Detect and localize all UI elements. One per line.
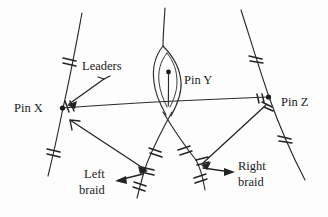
pin-z-dot [266,94,271,99]
pin-x-label: Pin X [14,101,43,115]
leaders-callout-line [69,79,104,104]
right-crossing-tick-lower [194,174,207,183]
left-braid-arrow-group [115,174,143,184]
right-crossing-tick-upper [178,146,192,155]
right-braid-arrow-group [203,168,235,176]
diagram-canvas: Pin X Pin Y Pin Z Leaders Left braid Rig… [0,0,328,217]
left-strand-line [48,13,82,176]
right-braid-label-line1: Right [238,159,266,173]
left-strand-tick-upper [63,58,76,66]
pin-z-label: Pin Z [281,95,308,109]
right-braid-arrow-tip [224,168,235,176]
pin-y-label: Pin Y [184,73,212,87]
horizontal-leader-group [62,94,268,108]
left-braid-label-line2: braid [79,183,105,197]
leaders-callout-group [67,76,110,109]
left-braid-arrow-tip [115,176,127,184]
left-strand-group [47,13,82,176]
leaders-callout-elbow [98,76,110,79]
center-loop-outer-right [163,46,181,116]
right-diagonal-leader-line [203,105,266,163]
right-braid-label-line2: braid [238,175,264,189]
right-crossing-strand [163,112,205,190]
center-loop-stem [163,8,165,46]
left-braid-label-line1: Left [84,167,105,181]
left-diagonal-leader-group [70,120,148,174]
center-loop-group [153,8,181,116]
leaders-label: Leaders [82,59,122,73]
center-loop-inner-left [159,53,167,107]
crossing-strands-group [133,112,207,198]
right-strand-tick-lower [278,136,292,143]
right-strand-tick-upper [249,56,263,63]
pin-x-dot [60,105,65,110]
braid-diagram-figure: Pin X Pin Y Pin Z Leaders Left braid Rig… [0,0,328,217]
left-diagonal-leader-line [70,120,146,170]
